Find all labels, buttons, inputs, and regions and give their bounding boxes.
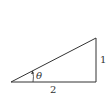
angle-label: θ <box>36 70 42 81</box>
height-label: 1 <box>100 54 106 65</box>
right-triangle <box>11 38 96 82</box>
base-label: 2 <box>50 84 56 93</box>
triangle-diagram: θ 1 2 <box>0 0 107 93</box>
